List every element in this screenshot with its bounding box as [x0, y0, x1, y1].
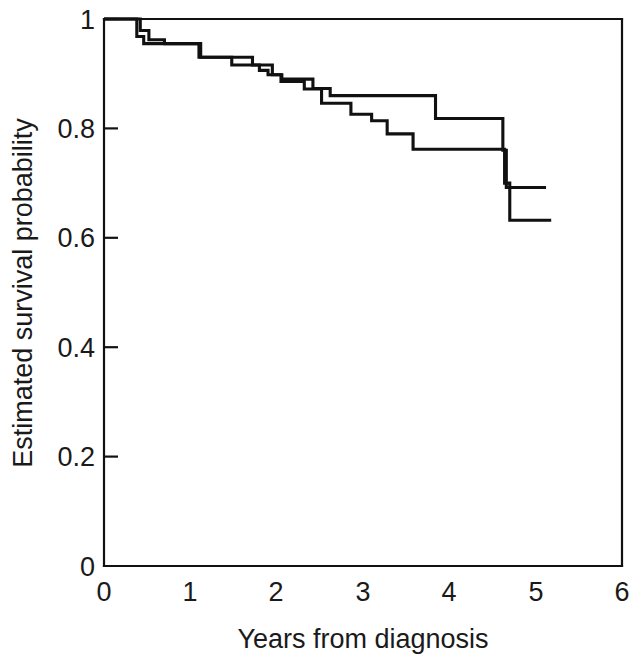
plot-axes — [104, 19, 622, 566]
x-tick-label-6: 6 — [614, 577, 629, 607]
x-tick-label-5: 5 — [528, 577, 543, 607]
y-axis-ticks — [104, 19, 118, 457]
y-tick-label-0-6: 0.6 — [57, 223, 95, 253]
kaplan-meier-chart: 1 0.8 0.6 0.4 0.2 0 0 1 2 3 4 5 6 Years … — [0, 0, 640, 657]
x-tick-label-2: 2 — [268, 577, 283, 607]
x-tick-label-1: 1 — [182, 577, 197, 607]
y-tick-label-0-4: 0.4 — [57, 333, 95, 363]
y-tick-label-0: 0 — [80, 552, 95, 582]
survival-curve-figure: 1 0.8 0.6 0.4 0.2 0 0 1 2 3 4 5 6 Years … — [0, 0, 640, 657]
y-axis-title: Estimated survival probability — [8, 118, 38, 468]
x-axis-title: Years from diagnosis — [237, 624, 488, 654]
y-axis-tick-labels: 1 0.8 0.6 0.4 0.2 0 — [57, 5, 95, 582]
y-tick-label-0-8: 0.8 — [57, 114, 95, 144]
x-tick-label-3: 3 — [355, 577, 370, 607]
x-tick-label-0: 0 — [96, 577, 111, 607]
x-axis-tick-labels: 0 1 2 3 4 5 6 — [96, 577, 629, 607]
y-tick-label-0-2: 0.2 — [57, 442, 95, 472]
y-tick-label-1: 1 — [80, 5, 95, 35]
x-tick-label-4: 4 — [441, 577, 456, 607]
